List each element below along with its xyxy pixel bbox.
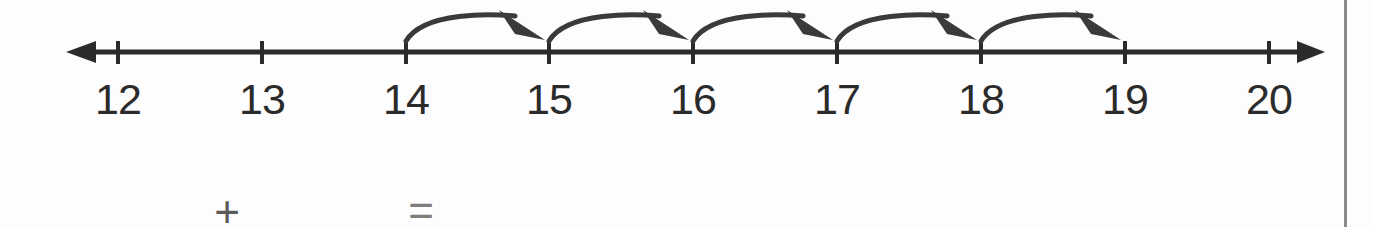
tick-label-14: 14	[383, 78, 429, 121]
tick-label-18: 18	[958, 78, 1004, 121]
hop-arc-14-to-15	[406, 15, 515, 41]
tick-label-20: 20	[1246, 78, 1292, 121]
hop-arrowhead-15	[499, 10, 545, 40]
number-line-axis	[66, 41, 1325, 63]
tick-label-12: 12	[95, 78, 141, 121]
hop-arcs-group	[406, 10, 1121, 41]
tick-label-19: 19	[1102, 78, 1148, 121]
right-border-rule	[1344, 0, 1347, 227]
tick-label-13: 13	[239, 78, 285, 121]
worksheet-canvas: 121314151617181920 + =	[0, 0, 1373, 227]
hop-arc-16-to-17	[693, 15, 803, 41]
equals-sign: =	[408, 189, 434, 227]
tick-label-16: 16	[670, 78, 716, 121]
plus-sign: +	[214, 190, 240, 227]
tick-label-17: 17	[814, 78, 860, 121]
tick-label-15: 15	[526, 78, 572, 121]
hop-arc-15-to-16	[549, 15, 659, 41]
hop-arc-18-to-19	[981, 15, 1091, 41]
hop-arc-17-to-18	[837, 15, 947, 41]
